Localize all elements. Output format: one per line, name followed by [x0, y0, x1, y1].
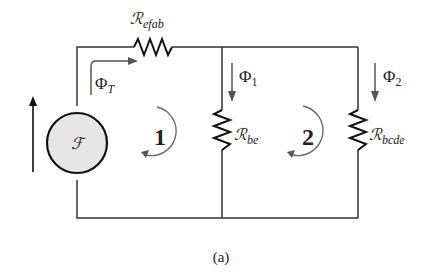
loop-1-label: 1: [154, 124, 166, 150]
figure-caption: (a): [213, 249, 230, 266]
resistor-efab-icon: [134, 39, 172, 55]
flux-1-arrow-icon: [228, 63, 236, 102]
wires: [77, 47, 358, 218]
resistor-efab-label: ℛefab: [130, 9, 164, 31]
resistor-be-label: ℛbe: [234, 125, 259, 147]
flux-1-label: Φ1: [239, 67, 257, 89]
flux-2-label: Φ2: [383, 67, 401, 89]
flux-total-label: ΦT: [95, 74, 115, 96]
mmf-direction-arrow-icon: [29, 96, 37, 172]
magnetic-circuit-diagram: ℱ ΦT Φ1 Φ2 ℛefab ℛbe ℛbcde 1 2 (a): [0, 0, 448, 275]
resistor-bcde-label: ℛbcde: [369, 125, 405, 147]
resistor-be-icon: [214, 110, 230, 150]
loop-2-label: 2: [302, 124, 314, 150]
resistor-bcde-icon: [350, 110, 366, 150]
flux-2-arrow-icon: [371, 63, 379, 102]
